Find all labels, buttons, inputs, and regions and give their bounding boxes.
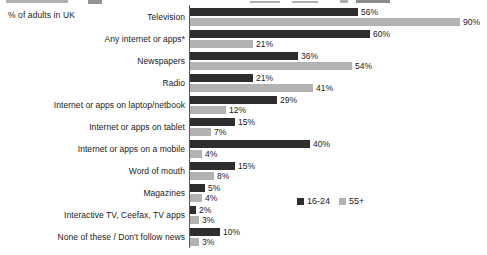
bar [190, 96, 277, 104]
legend-item: 16-24 [297, 196, 330, 206]
bar-row: 90% [190, 18, 487, 26]
bar [190, 52, 298, 60]
bar-value-label: 3% [202, 237, 214, 247]
legend-swatch [339, 198, 346, 205]
bar [190, 74, 253, 82]
legend-swatch [297, 198, 304, 205]
bar [190, 106, 226, 114]
legend: 16-2455+ [297, 196, 364, 206]
bar-value-label: 5% [208, 183, 220, 193]
bar-value-label: 7% [214, 127, 226, 137]
category-label: Radio [1, 78, 185, 88]
bar-row: 5% [190, 184, 487, 192]
bar [190, 172, 214, 180]
bar-value-label: 2% [199, 205, 211, 215]
category-label: Television [1, 12, 185, 22]
bar [190, 162, 235, 170]
category-label: Internet or apps on tablet [1, 122, 185, 132]
bar [190, 30, 370, 38]
bar [190, 150, 202, 158]
bar [190, 228, 220, 236]
bar-row: 7% [190, 128, 487, 136]
bar-value-label: 21% [256, 39, 273, 49]
legend-label: 55+ [349, 196, 364, 206]
bar-row: 41% [190, 84, 487, 92]
bar [190, 128, 211, 136]
bar-row: 60% [190, 30, 487, 38]
bar [190, 216, 199, 224]
bar [190, 140, 310, 148]
bar [190, 238, 199, 246]
bar [190, 8, 358, 16]
bar-value-label: 10% [223, 227, 240, 237]
category-label: None of these / Don't follow news [1, 232, 185, 242]
category-label: Magazines [1, 188, 185, 198]
category-label: Word of mouth [1, 166, 185, 176]
bar [190, 194, 202, 202]
bar-value-label: 12% [229, 105, 246, 115]
bar-row: 12% [190, 106, 487, 114]
bar-value-label: 4% [205, 193, 217, 203]
category-label: Any internet or apps* [1, 34, 185, 44]
bar [190, 62, 352, 70]
bar-value-label: 56% [361, 7, 378, 17]
bar-value-label: 90% [463, 17, 480, 27]
bar-value-label: 41% [316, 83, 333, 93]
bar-row: 56% [190, 8, 487, 16]
bar-row: 21% [190, 40, 487, 48]
bar-row: 8% [190, 172, 487, 180]
bar-value-label: 21% [256, 73, 273, 83]
legend-item: 55+ [339, 196, 364, 206]
bar-row: 15% [190, 162, 487, 170]
legend-label: 16-24 [307, 196, 330, 206]
bar-row: 4% [190, 150, 487, 158]
category-label: Newspapers [1, 56, 185, 66]
bar-value-label: 15% [238, 117, 255, 127]
bar-value-label: 54% [355, 61, 372, 71]
bar-row: 3% [190, 216, 487, 224]
category-label: Internet or apps on a mobile [1, 144, 185, 154]
bar-value-label: 15% [238, 161, 255, 171]
bar [190, 40, 253, 48]
cropped-header-remnant [0, 0, 487, 4]
bar-row: 54% [190, 62, 487, 70]
bar-value-label: 3% [202, 215, 214, 225]
bar [190, 84, 313, 92]
bar-row: 36% [190, 52, 487, 60]
bar-value-label: 8% [217, 171, 229, 181]
bar-row: 10% [190, 228, 487, 236]
bar-value-label: 4% [205, 149, 217, 159]
bar [190, 206, 196, 214]
bar-row: 21% [190, 74, 487, 82]
bar [190, 18, 460, 26]
bar-value-label: 60% [373, 29, 390, 39]
category-label: Interactive TV, Ceefax, TV apps [1, 210, 185, 220]
bar-row: 29% [190, 96, 487, 104]
bar-value-label: 40% [313, 139, 330, 149]
bar-value-label: 36% [301, 51, 318, 61]
bar-row: 15% [190, 118, 487, 126]
category-label: Internet or apps on laptop/netbook [1, 100, 185, 110]
bar-row: 2% [190, 206, 487, 214]
bar [190, 118, 235, 126]
bar-chart: % of adults in UK Television56%90%Any in… [0, 0, 487, 255]
bar-row: 3% [190, 238, 487, 246]
plot-area: Television56%90%Any internet or apps*60%… [189, 5, 487, 248]
bar-row: 40% [190, 140, 487, 148]
bar [190, 184, 205, 192]
bar-value-label: 29% [280, 95, 297, 105]
